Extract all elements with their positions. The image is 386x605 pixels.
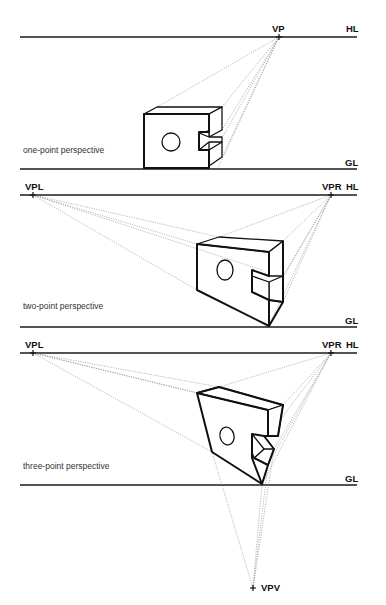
panel-one-point: VP HL GL one-point perspective xyxy=(20,23,359,169)
gl-label: GL xyxy=(345,473,358,484)
vp-marker xyxy=(276,34,282,40)
hole xyxy=(162,133,180,151)
caption: three-point perspective xyxy=(23,461,110,471)
block-three-point xyxy=(197,387,283,484)
vpr-label: VPR xyxy=(322,339,342,350)
vpl-marker xyxy=(30,192,36,198)
hole xyxy=(217,260,233,280)
vp-label: VP xyxy=(272,23,285,34)
panel-two-point: VPL VPR HL GL two-point perspective xyxy=(20,181,359,327)
vpv-marker xyxy=(250,585,256,591)
vpl-label: VPL xyxy=(25,339,44,350)
block-one-point xyxy=(144,107,222,168)
vpl-label: VPL xyxy=(25,181,44,192)
caption: one-point perspective xyxy=(23,145,105,155)
vpr-label: VPR xyxy=(322,181,342,192)
hl-label: HL xyxy=(346,339,359,350)
panel-three-point: VPL VPR VPV HL GL three-point perspectiv… xyxy=(20,339,359,593)
caption: two-point perspective xyxy=(23,301,104,311)
gl-label: GL xyxy=(345,315,358,326)
gl-label: GL xyxy=(345,157,358,168)
hl-label: HL xyxy=(346,181,359,192)
hole xyxy=(218,425,236,446)
vpv-label: VPV xyxy=(261,582,281,593)
perspective-diagram: VP HL GL one-point perspective xyxy=(0,0,386,605)
hl-label: HL xyxy=(346,23,359,34)
vpl-marker xyxy=(30,350,36,356)
block-two-point xyxy=(197,237,283,326)
